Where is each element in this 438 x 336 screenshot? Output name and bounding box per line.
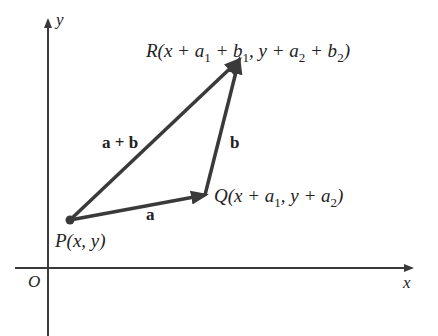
vector-a-label: a	[146, 205, 155, 225]
point-p-dot	[66, 216, 75, 225]
origin-label: O	[28, 272, 40, 292]
y-axis-label: y	[56, 10, 64, 30]
point-q-label: Q(x + a1, y + a2)	[214, 185, 343, 207]
vector-b	[205, 60, 239, 195]
point-r-label: R(x + a1 + b1, y + a2 + b2)	[146, 40, 350, 62]
vector-b-label: b	[230, 133, 239, 153]
point-p-label: P(x, y)	[55, 230, 106, 252]
x-axis-label: x	[403, 273, 411, 293]
vector-sum-label: a + b	[102, 133, 138, 153]
